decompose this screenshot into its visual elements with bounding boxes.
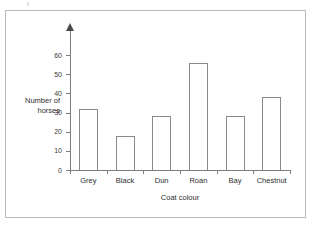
- x-category-label-chestnut: Chestnut: [251, 176, 292, 185]
- bar-bay: [226, 116, 245, 170]
- x-category-label-roan: Roan: [180, 176, 217, 185]
- y-axis-title: Number ofhorses: [16, 96, 60, 115]
- y-tick-mark: [66, 151, 71, 152]
- y-tick-label-60: 60: [54, 52, 62, 59]
- bar-chestnut: [262, 97, 281, 170]
- bar-chart-plot-area: 0 10 20 30 40 50 60 Grey Black Dun Roan …: [0, 0, 314, 231]
- x-category-label-bay: Bay: [217, 176, 254, 185]
- y-tick-mark: [66, 113, 71, 114]
- x-category-label-black: Black: [107, 176, 144, 185]
- y-tick-label-10: 10: [54, 147, 62, 154]
- x-tick-mark: [70, 170, 71, 174]
- bar-black: [116, 136, 135, 171]
- y-tick-mark: [66, 74, 71, 75]
- y-tick-label-0: 0: [58, 167, 62, 174]
- bar-dun: [152, 116, 171, 170]
- y-axis-line: [70, 30, 71, 170]
- y-tick-label-20: 20: [54, 128, 62, 135]
- bar-roan: [189, 63, 208, 170]
- y-axis-arrow-icon: [66, 23, 74, 31]
- x-tick-mark: [290, 170, 291, 174]
- x-tick-mark: [253, 170, 254, 174]
- y-tick-mark: [66, 93, 71, 94]
- x-tick-mark: [217, 170, 218, 174]
- x-category-label-grey: Grey: [70, 176, 107, 185]
- y-tick-mark: [66, 132, 71, 133]
- y-axis-title-line2: horses: [37, 106, 60, 115]
- x-tick-mark: [180, 170, 181, 174]
- x-tick-mark: [107, 170, 108, 174]
- y-tick-label-50: 50: [54, 71, 62, 78]
- x-category-label-dun: Dun: [143, 176, 180, 185]
- x-axis-title: Coat colour: [70, 193, 290, 202]
- y-tick-mark: [66, 55, 71, 56]
- bar-grey: [79, 109, 98, 170]
- y-axis-title-line1: Number of: [25, 96, 60, 105]
- x-tick-mark: [143, 170, 144, 174]
